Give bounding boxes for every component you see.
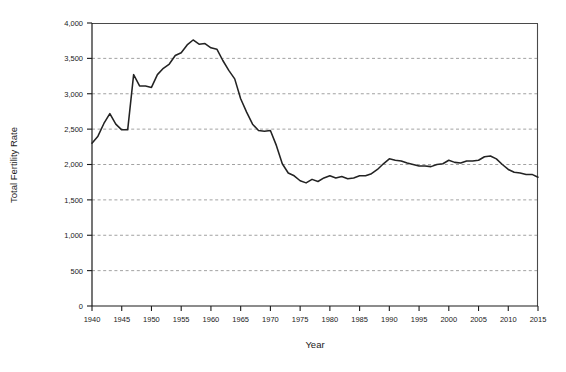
- x-tick-label: 2000: [440, 315, 457, 324]
- y-axis-title: Total Fertility Rate: [8, 127, 19, 203]
- y-tick-label: 500: [70, 267, 83, 276]
- x-tick-label: 1980: [322, 315, 339, 324]
- y-tick-label: 4,000: [64, 19, 83, 28]
- y-tick-label: 2,000: [64, 160, 83, 169]
- chart-canvas: 1940194519501955196019651970197519801985…: [0, 0, 566, 372]
- x-tick-labels-group: 1940194519501955196019651970197519801985…: [84, 315, 547, 324]
- x-tick-label: 1955: [173, 315, 190, 324]
- x-tick-label: 1990: [381, 315, 398, 324]
- x-tick-label: 2005: [470, 315, 487, 324]
- gridlines-group: [92, 58, 538, 270]
- x-tick-label: 1950: [143, 315, 160, 324]
- fertility-rate-line: [92, 40, 538, 183]
- x-tick-label: 1960: [203, 315, 220, 324]
- x-tick-label: 1995: [411, 315, 428, 324]
- x-tick-label: 2015: [530, 315, 547, 324]
- y-tick-label: 0: [79, 302, 83, 311]
- x-tick-marks-group: [92, 306, 538, 311]
- y-tick-label: 3,500: [64, 54, 83, 63]
- x-tick-label: 2010: [500, 315, 517, 324]
- x-tick-label: 1945: [113, 315, 130, 324]
- x-tick-label: 1940: [84, 315, 101, 324]
- x-axis-title: Year: [305, 339, 324, 350]
- y-tick-labels-group: 05001,0001,5002,0002,5003,0003,5004,000: [64, 19, 83, 311]
- x-tick-label: 1965: [232, 315, 249, 324]
- x-tick-label: 1970: [262, 315, 279, 324]
- x-tick-label: 1985: [351, 315, 368, 324]
- y-tick-label: 1,000: [64, 231, 83, 240]
- x-tick-label: 1975: [292, 315, 309, 324]
- y-tick-marks-group: [87, 23, 92, 306]
- fertility-rate-chart: 1940194519501955196019651970197519801985…: [0, 0, 566, 372]
- y-tick-label: 3,000: [64, 90, 83, 99]
- y-tick-label: 1,500: [64, 196, 83, 205]
- y-tick-label: 2,500: [64, 125, 83, 134]
